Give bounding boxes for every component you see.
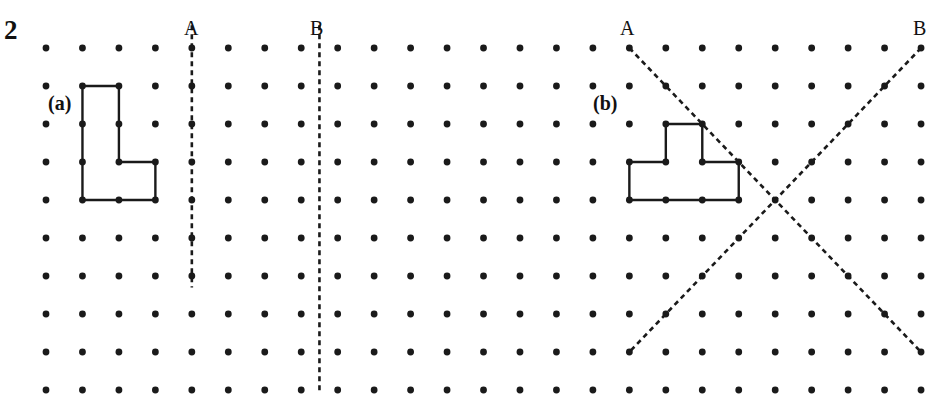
grid-dot	[626, 387, 633, 394]
grid-dot	[808, 387, 815, 394]
grid-dot	[772, 311, 779, 318]
grid-dot	[298, 45, 305, 52]
grid-dot	[444, 121, 451, 128]
part-b-line-a-label: A	[620, 18, 634, 38]
grid-dot	[444, 311, 451, 318]
grid-dot	[517, 45, 524, 52]
grid-dot	[407, 197, 414, 204]
grid-dot	[79, 311, 86, 318]
grid-dot	[225, 121, 232, 128]
grid-dot	[261, 121, 268, 128]
grid-dot	[225, 273, 232, 280]
grid-dot	[553, 83, 560, 90]
grid-dot	[699, 349, 706, 356]
grid-dot	[334, 387, 341, 394]
grid-dot	[261, 273, 268, 280]
grid-dot	[152, 83, 159, 90]
grid-dot	[407, 121, 414, 128]
grid-dot	[662, 273, 669, 280]
question-number: 2	[4, 17, 18, 44]
grid-dot	[152, 235, 159, 242]
grid-dot	[371, 273, 378, 280]
grid-dot	[918, 83, 925, 90]
grid-dot	[590, 387, 597, 394]
grid-dot	[225, 83, 232, 90]
grid-dot	[517, 83, 524, 90]
grid-dot	[590, 121, 597, 128]
grid-dot	[444, 197, 451, 204]
l-shape	[82, 86, 155, 200]
grid-dot	[590, 159, 597, 166]
grid-dot	[845, 311, 852, 318]
grid-dot	[261, 349, 268, 356]
grid-dot	[371, 197, 378, 204]
grid-dot	[590, 235, 597, 242]
grid-dot	[261, 235, 268, 242]
grid-dot	[298, 235, 305, 242]
grid-dot	[662, 235, 669, 242]
grid-dot	[881, 235, 888, 242]
grid-dot	[407, 273, 414, 280]
grid-dot	[298, 121, 305, 128]
grid-dot	[371, 45, 378, 52]
grid-dot	[152, 45, 159, 52]
grid-dot	[918, 273, 925, 280]
grid-dot	[881, 159, 888, 166]
grid-dot	[298, 159, 305, 166]
grid-dot	[480, 197, 487, 204]
grid-dot	[699, 235, 706, 242]
grid-dot	[881, 387, 888, 394]
grid-dot	[699, 387, 706, 394]
mirror-lines	[192, 25, 921, 392]
grid-dot	[735, 311, 742, 318]
grid-dot	[881, 121, 888, 128]
grid-dot	[43, 197, 50, 204]
dot-grid-diagram	[0, 0, 934, 406]
grid-dot	[480, 83, 487, 90]
grid-dot	[918, 159, 925, 166]
grid-dot	[553, 387, 560, 394]
grid-dot	[699, 83, 706, 90]
grid-dot	[845, 387, 852, 394]
grid-dot	[225, 235, 232, 242]
grid-dot	[480, 349, 487, 356]
grid-dot	[845, 159, 852, 166]
grid-dot	[553, 159, 560, 166]
grid-dot	[662, 349, 669, 356]
grid-dot	[407, 311, 414, 318]
grid-dot	[407, 349, 414, 356]
grid-dot	[808, 45, 815, 52]
grid-dot	[845, 83, 852, 90]
grid-dot	[444, 159, 451, 166]
grid-dot	[881, 349, 888, 356]
grid-dot	[735, 45, 742, 52]
grid-dot	[188, 387, 195, 394]
grid-dot	[116, 45, 123, 52]
grid-dot	[845, 45, 852, 52]
grid-dot	[116, 273, 123, 280]
grid-dot	[261, 197, 268, 204]
t-shape	[629, 124, 738, 200]
grid-dot	[626, 83, 633, 90]
grid-dot	[444, 83, 451, 90]
grid-dot	[43, 235, 50, 242]
grid-dot	[918, 387, 925, 394]
grid-dot	[626, 311, 633, 318]
grid-dot	[444, 45, 451, 52]
grid-dot	[881, 273, 888, 280]
grid-dot	[43, 273, 50, 280]
grid-dot	[298, 349, 305, 356]
grid-dot	[261, 45, 268, 52]
grid-dot	[371, 235, 378, 242]
grid-dot	[918, 311, 925, 318]
grid-dot	[116, 349, 123, 356]
grid-dot	[626, 235, 633, 242]
grid-dot	[261, 311, 268, 318]
grid-dot	[662, 387, 669, 394]
grid-dot	[808, 349, 815, 356]
grid-dot	[772, 235, 779, 242]
grid-dot	[918, 197, 925, 204]
grid-dot	[590, 83, 597, 90]
grid-dot	[517, 349, 524, 356]
grid-dot	[225, 197, 232, 204]
